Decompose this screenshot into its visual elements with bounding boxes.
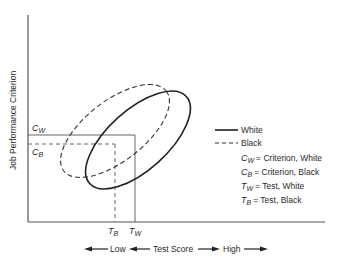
low-label: Low <box>110 244 126 254</box>
cw-label: CW <box>32 123 47 134</box>
legend: White Black CW= Criterion, White CB= Cri… <box>215 125 322 206</box>
y-axis-label: Job Performance Criterion <box>8 71 18 170</box>
test-score-label: Test Score <box>153 244 193 254</box>
expectancy-diagram: Job Performance Criterion CW CB TB TW Lo… <box>0 0 339 265</box>
legend-def-cw: CW= Criterion, White <box>241 153 322 164</box>
high-label: High <box>223 244 241 254</box>
tb-label: TB <box>108 226 119 237</box>
legend-black-label: Black <box>241 138 263 148</box>
test-score-scale: Low Test Score High <box>84 244 268 254</box>
arrow-left-icon <box>129 247 137 252</box>
cb-label: CB <box>32 147 44 158</box>
legend-def-tw: TW= Test, White <box>241 181 305 192</box>
arrow-right-icon <box>260 247 268 252</box>
legend-white-label: White <box>241 125 263 135</box>
arrow-left-icon <box>84 247 92 252</box>
legend-def-tb: TB= Test, Black <box>241 195 302 206</box>
arrow-right-icon <box>212 247 220 252</box>
legend-def-cb: CB= Criterion, Black <box>241 167 320 178</box>
white-ellipse <box>70 74 207 206</box>
tw-label: TW <box>129 226 143 237</box>
